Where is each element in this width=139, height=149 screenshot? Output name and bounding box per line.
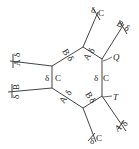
label-left-delta: δ [45,73,49,83]
label-tl-edge-delta: δ [65,54,76,63]
spoke-top [83,12,98,47]
label-right-c: C [103,73,109,83]
q-arrow-icon [103,57,112,61]
hexagon-diagram: δ C B δ A δ δ B δ C A δ B δ A δ A δ B δ … [0,0,139,149]
label-lb-spoke-delta: δ [11,95,21,99]
label-q: Q [113,52,120,62]
label-left-c: C [55,73,61,83]
t-arrow-icon [103,96,112,97]
label-lt-spoke-a: A [12,59,22,66]
label-lb-spoke-b: B [11,84,21,90]
label-t: T [113,92,119,102]
label-bot-spoke-c: C [96,133,102,143]
label-right-delta: δ [94,73,98,83]
label-bot-spoke-delta: δ [90,136,94,146]
label-lt-spoke-delta: δ [12,53,22,57]
label-top-spoke-c: C [98,8,104,18]
label-top-spoke-delta: δ [91,5,95,15]
